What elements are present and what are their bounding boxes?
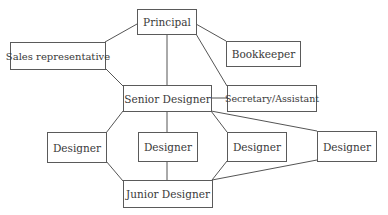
edge-principal-secretary	[196, 34, 227, 86]
node-designer-3: Designer	[227, 132, 287, 162]
node-designer-4: Designer	[317, 131, 377, 162]
node-senior-designer: Senior Designer	[123, 85, 212, 112]
edge-senior-designer4	[211, 111, 317, 131]
node-secretary-assistant: Secretary/Assistant	[227, 85, 317, 112]
edge-designer1-junior	[106, 161, 123, 181]
edge-senior-designer1	[106, 111, 123, 133]
node-designer-2: Designer	[138, 132, 198, 162]
edge-designer4-junior	[212, 160, 317, 180]
node-principal: Principal	[137, 9, 197, 35]
node-sales-representative: Sales representative	[10, 42, 106, 70]
node-junior-designer: Junior Designer	[123, 180, 213, 208]
edge-senior-designer3	[211, 111, 227, 132]
org-chart: Principal Sales representative Bookkeepe…	[0, 0, 388, 215]
node-bookkeeper: Bookkeeper	[226, 41, 301, 67]
edge-principal-bookkeeper	[196, 24, 226, 41]
node-designer-1: Designer	[47, 132, 107, 163]
edge-principal-sales	[105, 24, 137, 42]
edge-sales-senior	[105, 68, 123, 86]
